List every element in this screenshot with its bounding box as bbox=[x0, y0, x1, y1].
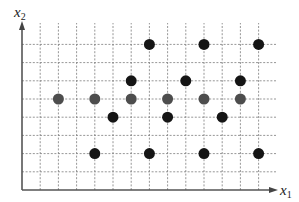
black-point bbox=[126, 75, 137, 86]
gray-point bbox=[89, 94, 100, 105]
black-point bbox=[162, 112, 173, 123]
black-point bbox=[253, 148, 264, 159]
x-axis-label: x1 bbox=[279, 182, 292, 200]
black-point bbox=[253, 39, 264, 50]
black-point bbox=[217, 112, 228, 123]
black-point bbox=[89, 148, 100, 159]
black-point bbox=[180, 75, 191, 86]
gray-point bbox=[53, 94, 64, 105]
black-point bbox=[235, 75, 246, 86]
x-axis-arrow-icon bbox=[269, 187, 278, 193]
gray-point bbox=[162, 94, 173, 105]
black-point bbox=[199, 148, 210, 159]
lattice-diagram: x1 x2 bbox=[0, 0, 299, 202]
gray-point bbox=[126, 94, 137, 105]
y-axis-label: x2 bbox=[13, 4, 26, 22]
gray-point bbox=[235, 94, 246, 105]
gray-point bbox=[199, 94, 210, 105]
y-axis-arrow-icon bbox=[19, 21, 25, 30]
black-point bbox=[144, 39, 155, 50]
black-point bbox=[108, 112, 119, 123]
black-point bbox=[199, 39, 210, 50]
black-point bbox=[144, 148, 155, 159]
